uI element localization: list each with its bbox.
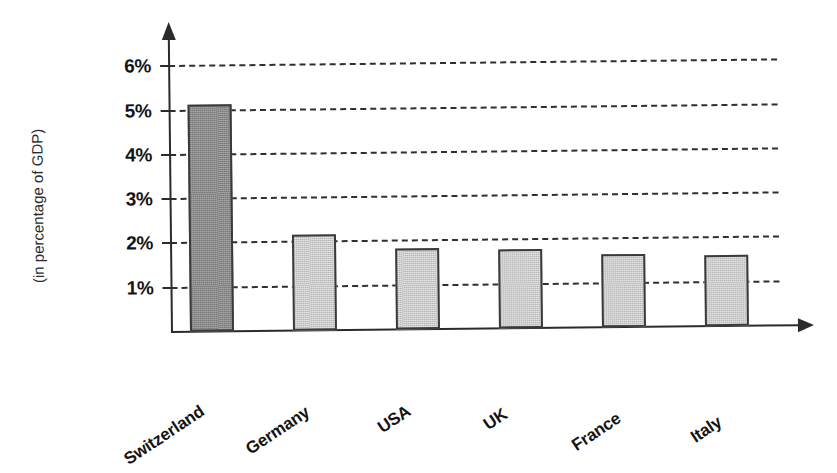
category-label-switzerland: Switzerland <box>120 402 208 470</box>
category-label-france: France <box>568 409 625 456</box>
plot-area: (in percentage of GDP) 6% 5% 4% <box>0 0 837 473</box>
bar-uk[interactable] <box>498 249 543 329</box>
gridline-3 <box>171 191 779 200</box>
bar-switzerland[interactable] <box>188 104 234 331</box>
bar-italy[interactable] <box>704 255 749 327</box>
y-tick-6 <box>160 65 169 67</box>
y-tick-label-6: 6% <box>97 55 151 78</box>
category-label-uk: UK <box>480 405 511 435</box>
y-tick-label-3: 3% <box>98 188 152 211</box>
y-tick-label-2: 2% <box>99 232 153 255</box>
y-tick-label-5-wrap: 5% <box>89 100 151 121</box>
gridline-1 <box>172 280 780 289</box>
y-tick-label-6-wrap: 6% <box>89 55 151 76</box>
y-tick-5 <box>161 110 170 112</box>
bar-usa[interactable] <box>395 248 440 329</box>
x-axis-arrow-icon <box>798 318 814 332</box>
y-tick-label-5: 5% <box>97 100 151 123</box>
y-tick-1 <box>163 287 172 289</box>
y-tick-4 <box>161 154 170 156</box>
y-tick-label-4: 4% <box>98 144 152 167</box>
chart-skew-wrapper: (in percentage of GDP) 6% 5% 4% <box>0 0 837 473</box>
y-tick-label-2-wrap: 2% <box>91 232 153 253</box>
gridline-4 <box>170 147 778 156</box>
gridline-6 <box>169 58 777 67</box>
y-tick-label-3-wrap: 3% <box>90 188 152 209</box>
gridline-5 <box>170 103 778 112</box>
bar-france[interactable] <box>601 253 646 327</box>
y-tick-label-1-wrap: 1% <box>91 277 153 298</box>
chart-figure: (in percentage of GDP) 6% 5% 4% <box>0 0 837 473</box>
y-axis-arrow-icon <box>162 22 176 40</box>
category-label-usa: USA <box>374 402 414 438</box>
y-axis-title: (in percentage of GDP) <box>28 106 47 306</box>
y-tick-label-4-wrap: 4% <box>90 144 152 165</box>
category-label-germany: Germany <box>242 402 313 459</box>
y-tick-3 <box>162 198 171 200</box>
y-tick-label-1: 1% <box>99 277 153 300</box>
bar-germany[interactable] <box>292 235 337 331</box>
gridline-2 <box>171 235 779 244</box>
y-tick-2 <box>162 242 171 244</box>
category-label-italy: Italy <box>687 412 726 447</box>
